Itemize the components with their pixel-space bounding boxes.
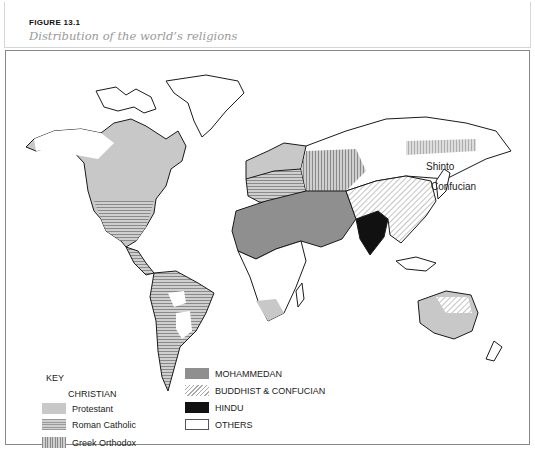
central-america [126,247,154,275]
legend-label: Protestant [72,404,113,414]
madagascar [296,283,304,307]
greek-orthodox-swatch [42,437,66,448]
protestant-swatch [42,403,66,414]
legend-label: Roman Catholic [72,420,136,430]
legend-protestant: Protestant [42,403,113,414]
indonesia [396,257,436,271]
legend-roman-catholic: Roman Catholic [42,419,136,430]
christian-heading: CHRISTIAN [68,389,117,399]
legend-label: OTHERS [215,420,253,430]
legend-hindu: HINDU [185,402,244,413]
figure-number: FIGURE 13.1 [29,18,80,27]
legend-label: HINDU [215,403,244,413]
legend-label: BUDDHIST & CONFUCIAN [215,386,325,396]
shinto-label: Shinto [426,161,454,172]
buddhist-confucian-swatch [185,385,209,396]
legend-greek-orthodox: Greek Orthodox [42,437,136,448]
mohammedan-swatch [185,368,209,379]
legend-label: Greek Orthodox [72,438,136,448]
new-zealand [486,341,502,361]
key-title: KEY [46,373,64,383]
figure-title: Distribution of the world’s religions [29,29,237,43]
others-swatch [185,419,209,430]
legend-buddhist-confucian: BUDDHIST & CONFUCIAN [185,385,325,396]
figure-caption-box: FIGURE 13.1 Distribution of the world’s … [4,2,531,48]
legend-label: MOHAMMEDAN [215,369,282,379]
truncated-source-line [0,452,535,464]
roman-catholic-swatch [42,419,66,430]
arctic-islands [96,87,156,113]
hindu-swatch [185,402,209,413]
legend-others: OTHERS [185,419,253,430]
legend-mohammedan: MOHAMMEDAN [185,368,282,379]
confucian-label: Confucian [431,181,476,192]
world-religions-map: Shinto Confucian KEY CHRISTIAN Protestan… [5,50,530,445]
greenland [166,75,244,137]
